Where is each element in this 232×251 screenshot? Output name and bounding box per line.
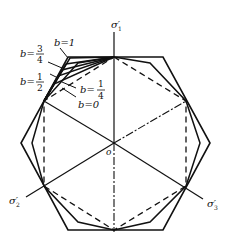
sigma3-axis xyxy=(114,143,203,199)
label-b1: b=1 xyxy=(54,37,75,48)
label-sigma3-sub: 3 xyxy=(214,204,218,211)
label-b12-num: 1 xyxy=(37,72,43,82)
label-b34-prefix: b= xyxy=(20,48,35,59)
label-b14-prefix: b= xyxy=(80,84,95,95)
diag-ur xyxy=(114,101,186,143)
label-origin: o xyxy=(106,147,112,157)
yield-locus-diagram: b=1 b= 3 4 b= 1 2 b= 1 4 b=0 σ′ 1 σ′ 2 σ… xyxy=(0,0,232,251)
label-b34-den: 4 xyxy=(37,55,43,65)
label-b12-den: 2 xyxy=(37,83,43,93)
label-sigma2-sub: 2 xyxy=(16,201,20,208)
label-b12-prefix: b= xyxy=(20,76,35,87)
label-sigma1-sub: 1 xyxy=(118,25,122,32)
label-b14-num: 1 xyxy=(98,79,104,89)
label-b34-num: 3 xyxy=(37,44,43,54)
label-b0: b=0 xyxy=(78,99,100,110)
